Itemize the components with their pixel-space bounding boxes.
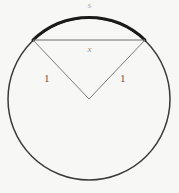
arc-length-label: s: [0, 1, 179, 10]
radius-right-label: 1: [120, 73, 126, 84]
radius-left-label: 1: [44, 73, 50, 84]
chord-length-label: x: [0, 45, 179, 54]
arc-highlight-s: [33, 18, 145, 40]
geometry-canvas: [0, 0, 179, 193]
geometry-figure: s x 1 1: [0, 0, 179, 193]
